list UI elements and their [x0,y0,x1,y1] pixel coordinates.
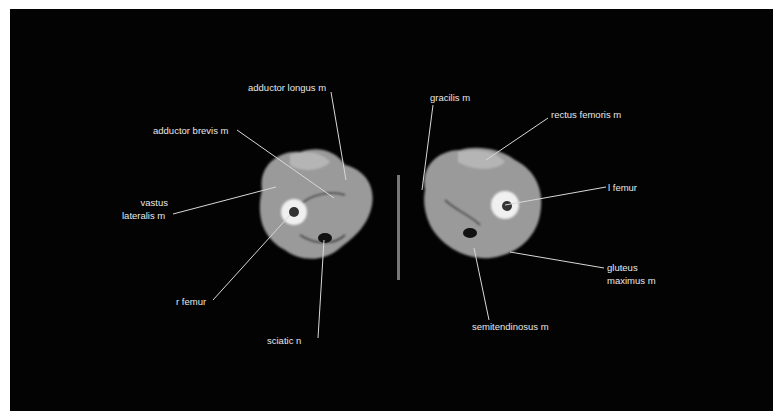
label-gluteus-maximus-1: gluteus [607,261,638,274]
label-adductor-brevis: adductor brevis m [153,124,229,137]
label-gracilis: gracilis m [430,91,470,104]
label-r-femur: r femur [176,295,206,308]
leader-lines [173,92,606,338]
label-rectus-femoris: rectus femoris m [551,108,621,121]
label-sciatic-nerve: sciatic n [267,334,301,347]
label-vastus-lateralis-2: lateralis m [122,209,165,222]
label-vastus-lateralis-1: vastus [118,196,168,209]
label-l-femur: l femur [608,181,637,194]
left-thigh-shape [424,148,541,258]
ct-scan-graphic [0,0,779,415]
right-thigh-shape [260,149,373,258]
label-semitendinosus: semitendinosus m [472,320,549,333]
label-gluteus-maximus-2: maximus m [607,274,656,287]
label-adductor-longus: adductor longus m [248,81,326,94]
scan-table-artifact [397,175,400,280]
